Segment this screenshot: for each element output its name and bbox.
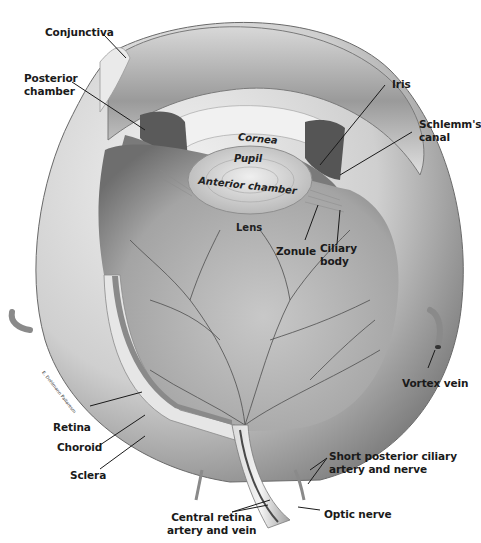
label-ciliary-body: Ciliary body bbox=[320, 242, 357, 268]
label-choroid: Choroid bbox=[57, 441, 102, 454]
label-optic-nerve: Optic nerve bbox=[324, 508, 392, 521]
label-schlemms-canal: Schlemm's canal bbox=[419, 118, 481, 144]
label-posterior-chamber: Posterior chamber bbox=[24, 72, 78, 98]
label-short-posterior-ciliary: Short posterior ciliary artery and nerve bbox=[329, 450, 457, 476]
label-sclera: Sclera bbox=[70, 469, 106, 482]
label-iris: Iris bbox=[392, 78, 411, 91]
label-lens: Lens bbox=[236, 222, 262, 233]
label-zonule: Zonule bbox=[276, 245, 316, 258]
label-central-retina: Central retina artery and vein bbox=[167, 511, 256, 537]
vortex-vein-left bbox=[12, 312, 30, 330]
label-vortex-vein: Vortex vein bbox=[402, 377, 468, 390]
label-pupil: Pupil bbox=[234, 153, 262, 164]
label-conjunctiva: Conjunctiva bbox=[45, 26, 114, 39]
label-retina: Retina bbox=[53, 421, 91, 434]
